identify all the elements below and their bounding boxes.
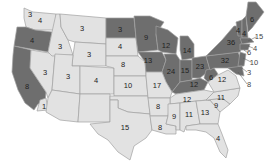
- state-label-RI: 4: [253, 45, 257, 53]
- state-label-NE: 8: [121, 61, 125, 69]
- state-label-UT: 3: [66, 73, 70, 81]
- state-label-OR: 4: [30, 37, 34, 45]
- state-label-WI: 12: [162, 42, 170, 50]
- state-label-IN: 15: [181, 67, 189, 75]
- state-label-CT: 6: [247, 49, 251, 57]
- us-map: 4348133333434810159131788122414151212911…: [0, 0, 269, 167]
- state-label-LA: 8: [158, 124, 162, 132]
- state-label-MS: 9: [172, 113, 176, 121]
- state-label-ND: 3: [118, 26, 122, 34]
- state-label-CA: 8: [25, 83, 29, 91]
- state-label-PA: 32: [221, 57, 229, 65]
- state-label-WY: 3: [87, 51, 91, 59]
- state-label-VT: 4: [236, 27, 240, 35]
- state-label-MI: 14: [183, 47, 191, 55]
- state-label-ID: 3: [58, 43, 62, 51]
- state-AZ: [46, 90, 80, 122]
- state-label-TN: 12: [183, 96, 191, 104]
- state-label-KY: 12: [190, 81, 198, 89]
- state-label-NH: 4: [242, 30, 246, 38]
- state-label-KS: 10: [124, 82, 132, 90]
- state-label-ME: 6: [250, 16, 254, 24]
- state-label-VA: 12: [218, 76, 226, 84]
- state-label-GA: 13: [201, 109, 209, 117]
- state-label-MO: 17: [153, 82, 161, 90]
- state-label-SD: 4: [118, 43, 122, 51]
- state-label-DE: 3: [247, 69, 251, 77]
- state-label-MA: 15: [255, 33, 263, 41]
- state-label-WA-small: 3: [28, 11, 32, 19]
- state-label-NY: 36: [227, 39, 235, 47]
- state-label-NC: 11: [217, 94, 225, 102]
- state-label-OH: 23: [196, 63, 204, 71]
- state-label-MD: 8: [247, 81, 251, 89]
- state-label-MT: 3: [80, 25, 84, 33]
- state-label-IL: 24: [167, 68, 175, 76]
- state-label-WV: 6: [209, 74, 213, 82]
- state-label-CA-south: 1: [42, 103, 46, 111]
- state-ME: [246, 2, 264, 32]
- state-label-NJ: 10: [250, 59, 258, 67]
- state-label-MN: 9: [144, 34, 148, 42]
- state-label-TX: 15: [121, 124, 129, 132]
- state-label-FL: 4: [216, 135, 220, 143]
- state-label-IA: 13: [144, 57, 152, 65]
- state-label-CO: 4: [94, 77, 98, 85]
- state-label-AL: 11: [185, 111, 193, 119]
- state-label-WA: 4: [38, 17, 42, 25]
- state-FL: [186, 124, 228, 158]
- state-label-SC: 9: [214, 102, 218, 110]
- state-label-NV: 3: [43, 69, 47, 77]
- state-label-AR: 8: [156, 103, 160, 111]
- state-NM: [78, 94, 110, 122]
